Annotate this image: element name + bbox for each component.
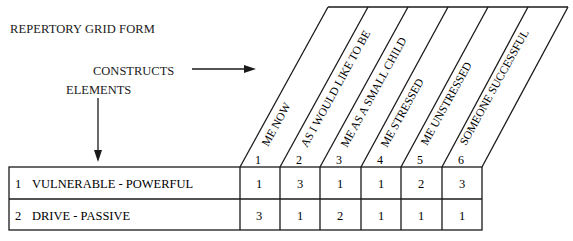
cell-value: 2 <box>418 177 424 191</box>
elements-arrowhead-icon <box>94 150 102 162</box>
cell-value: 1 <box>337 177 343 191</box>
column-number: 3 <box>336 153 342 167</box>
column-number: 5 <box>417 153 423 167</box>
row-number: 2 <box>15 209 21 223</box>
column-label: ME STRESSED <box>378 76 426 149</box>
cell-value: 1 <box>459 209 465 223</box>
cell-value: 1 <box>378 209 384 223</box>
row-number: 1 <box>15 177 21 191</box>
cell-value: 3 <box>256 209 262 223</box>
cell-value: 1 <box>297 209 303 223</box>
constructs-arrowhead-icon <box>244 65 256 73</box>
cell-value: 1 <box>256 177 262 191</box>
cell-value: 2 <box>337 209 343 223</box>
cell-value: 3 <box>459 177 465 191</box>
column-label: SOMEONE SUCCESSFUL <box>457 27 531 147</box>
column-number: 1 <box>255 153 261 167</box>
column-label: ME NOW <box>259 100 293 148</box>
cell-value: 1 <box>378 177 384 191</box>
cell-value: 3 <box>297 177 303 191</box>
column-number: 2 <box>296 153 302 167</box>
column-number: 4 <box>377 153 383 167</box>
row-label: DRIVE - PASSIVE <box>32 209 131 223</box>
column-number: 6 <box>458 153 464 167</box>
cell-value: 1 <box>418 209 424 223</box>
repertory-grid: 1 2 3 4 5 6 ME NOW AS I WOULD LIKE TO BE… <box>0 0 573 241</box>
row-label: VULNERABLE - POWERFUL <box>32 177 193 191</box>
column-label: AS I WOULD LIKE TO BE <box>298 28 372 149</box>
